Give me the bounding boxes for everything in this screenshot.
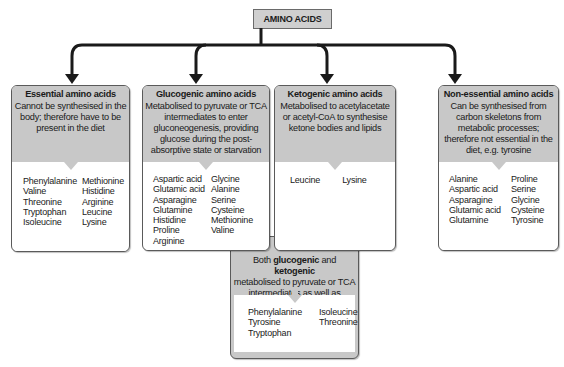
- amino-acid-item: Asparagine: [449, 195, 501, 205]
- category-box-essential: Essential amino acids Cannot be synthesi…: [11, 85, 130, 252]
- glucogenic-title: Glucogenic amino acids: [145, 89, 267, 100]
- amino-acid-item: Tyrosine: [511, 215, 544, 225]
- amino-acid-item: Phenylalanine: [248, 307, 302, 317]
- amino-acid-item: Valine: [211, 225, 253, 235]
- ketogenic-title: Ketogenic amino acids: [277, 89, 393, 100]
- arrow-head-non-essential: [448, 74, 462, 84]
- amino-acid-item: Glutamine: [153, 205, 205, 215]
- glucogenic-list-panel: Aspartic acid Glutamic acid Asparagine G…: [146, 162, 266, 250]
- amino-acid-item: Phenylalanine: [23, 176, 77, 186]
- down-arrow-icon: [64, 162, 78, 170]
- down-arrow-icon: [328, 162, 342, 170]
- amino-acid-item: Alanine: [211, 184, 253, 194]
- amino-acid-item: Arginine: [153, 236, 205, 246]
- amino-acid-item: Leucine: [82, 207, 124, 217]
- glucogenic-column-2: Glycine Alanine Serine Cysteine Methioni…: [211, 174, 253, 246]
- essential-header: Essential amino acids Cannot be synthesi…: [12, 86, 129, 162]
- arrow-head-ketogenic: [320, 74, 334, 84]
- category-box-non-essential: Non-essential amino acids Can be synthes…: [438, 85, 559, 251]
- amino-acid-item: Aspartic acid: [153, 174, 205, 184]
- down-arrow-icon: [288, 295, 302, 303]
- non-essential-column-2: Proline Serine Glycine Cysteine Tyrosine: [511, 174, 544, 225]
- amino-acid-item: Glutamic acid: [153, 184, 205, 194]
- non-essential-column-1: Alanine Aspartic acid Asparagine Glutami…: [449, 174, 501, 225]
- both-list-panel: Phenylalanine Tyrosine Tryptophan Isoleu…: [234, 295, 355, 352]
- amino-acid-item: Methionine: [82, 176, 124, 186]
- amino-acid-item: Histidine: [153, 215, 205, 225]
- ketogenic-header: Ketogenic amino acids Metabolised to ace…: [275, 86, 395, 162]
- ketogenic-description: Metabolised to acetylacetate or acetyl-C…: [280, 101, 389, 133]
- amino-acid-item: Glycine: [511, 195, 544, 205]
- amino-acid-item: Threonine: [23, 197, 77, 207]
- non-essential-title: Non-essential amino acids: [441, 89, 556, 100]
- amino-acid-item: Asparagine: [153, 195, 205, 205]
- amino-acid-item: Tryptophan: [248, 328, 302, 338]
- non-essential-list-panel: Alanine Aspartic acid Asparagine Glutami…: [442, 162, 555, 250]
- amino-acid-item: Valine: [23, 186, 77, 196]
- glucogenic-column-1: Aspartic acid Glutamic acid Asparagine G…: [153, 174, 205, 246]
- down-arrow-icon: [199, 162, 213, 170]
- arrow-head-glucogenic: [189, 74, 203, 84]
- glucogenic-description: Metabolised to pyruvate or TCA intermedi…: [145, 101, 267, 155]
- both-title: Both glucogenic and ketogenic: [253, 255, 336, 276]
- connector-arrows: [0, 0, 564, 90]
- amino-acid-item: Methionine: [211, 215, 253, 225]
- amino-acid-item: Serine: [511, 184, 544, 194]
- amino-acid-item: Arginine: [82, 197, 124, 207]
- ketogenic-list-panel: Leucine Lysine: [278, 162, 392, 250]
- essential-column-1: Phenylalanine Valine Threonine Tryptopha…: [23, 176, 77, 227]
- essential-column-2: Methionine Histidine Arginine Leucine Ly…: [82, 176, 124, 227]
- both-column-2: Isoleucine Threonine: [319, 307, 358, 338]
- amino-acid-item: Isoleucine: [23, 217, 77, 227]
- amino-acid-item: Isoleucine: [319, 307, 358, 317]
- amino-acid-item: Alanine: [449, 174, 501, 184]
- non-essential-header: Non-essential amino acids Can be synthes…: [439, 86, 558, 162]
- amino-acid-item: Lysine: [342, 175, 366, 185]
- category-box-ketogenic: Ketogenic amino acids Metabolised to ace…: [274, 85, 396, 251]
- essential-description: Cannot be synthesised in the body; there…: [15, 101, 127, 133]
- amino-acid-item: Threonine: [319, 317, 358, 327]
- amino-acid-item: Lysine: [82, 217, 124, 227]
- arrow-head-essential: [65, 74, 79, 84]
- amino-acid-item: Tyrosine: [248, 317, 302, 327]
- amino-acid-item: Glutamine: [449, 215, 501, 225]
- essential-list-panel: Phenylalanine Valine Threonine Tryptopha…: [15, 162, 126, 252]
- amino-acid-item: Leucine: [290, 175, 320, 185]
- amino-acid-item: Cysteine: [511, 205, 544, 215]
- ketogenic-column-1: Leucine: [290, 175, 320, 185]
- essential-title: Essential amino acids: [14, 89, 127, 100]
- amino-acid-item: Tryptophan: [23, 207, 77, 217]
- amino-acid-item: Cysteine: [211, 205, 253, 215]
- glucogenic-header: Glucogenic amino acids Metabolised to py…: [143, 86, 269, 162]
- both-column-1: Phenylalanine Tyrosine Tryptophan: [248, 307, 302, 338]
- amino-acid-item: Histidine: [82, 186, 124, 196]
- category-box-both: Both glucogenic and ketogenic metabolise…: [230, 236, 359, 359]
- amino-acid-item: Glycine: [211, 174, 253, 184]
- category-box-glucogenic: Glucogenic amino acids Metabolised to py…: [142, 85, 270, 251]
- down-arrow-icon: [492, 162, 506, 170]
- amino-acid-item: Glutamic acid: [449, 205, 501, 215]
- amino-acid-item: Serine: [211, 195, 253, 205]
- non-essential-description: Can be synthesised from carbon skeletons…: [444, 101, 552, 155]
- amino-acid-item: Proline: [153, 225, 205, 235]
- amino-acid-item: Aspartic acid: [449, 184, 501, 194]
- amino-acid-item: Proline: [511, 174, 544, 184]
- ketogenic-column-2: Lysine: [342, 175, 366, 185]
